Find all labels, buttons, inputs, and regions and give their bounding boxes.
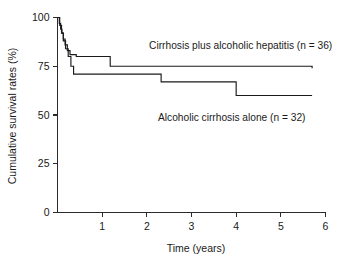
series-curves [58, 18, 313, 96]
y-axis-title: Cumulative survival rates (%) [6, 48, 18, 185]
y-tick-label: 75 [38, 60, 50, 72]
curve-label-1: Cirrhosis plus alcoholic hepatitis (n = … [149, 40, 332, 51]
x-axis-ticks: 123456 [99, 213, 328, 232]
y-tick-label: 25 [38, 157, 50, 169]
curve-label-2: Alcoholic cirrhosis alone (n = 32) [158, 112, 306, 123]
y-tick-label: 0 [44, 206, 50, 218]
y-tick-label: 100 [32, 11, 50, 23]
plot-area: 0255075100 123456 Cirrhosis plus alcohol… [32, 11, 332, 231]
km-survival-figure: 0255075100 123456 Cirrhosis plus alcohol… [0, 0, 347, 266]
y-tick-label: 50 [38, 109, 50, 121]
x-tick-label: 4 [233, 220, 239, 232]
x-tick-label: 1 [99, 220, 105, 232]
x-axis-title: Time (years) [167, 242, 226, 254]
y-axis-ticks: 0255075100 [32, 11, 58, 218]
x-tick-label: 5 [278, 220, 284, 232]
x-tick-label: 3 [189, 220, 195, 232]
x-tick-label: 6 [323, 220, 329, 232]
km-survival-chart: 0255075100 123456 Cirrhosis plus alcohol… [0, 0, 347, 266]
x-tick-label: 2 [144, 220, 150, 232]
